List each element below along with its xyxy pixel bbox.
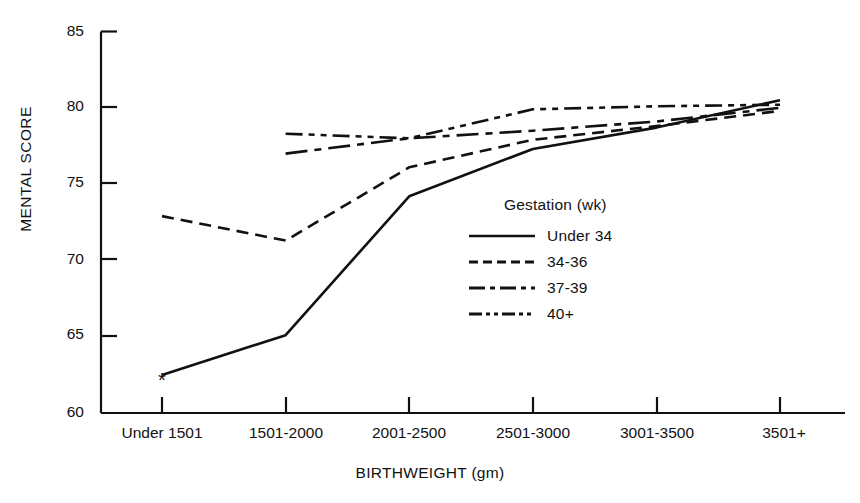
y-tick-label-70: 70 xyxy=(42,250,84,268)
y-tick-label-80: 80 xyxy=(42,97,84,115)
legend-title: Gestation (wk) xyxy=(504,196,612,214)
x-axis-ticks xyxy=(162,397,780,413)
legend-label-40-plus: 40+ xyxy=(547,305,574,323)
y-tick-label-65: 65 xyxy=(42,325,84,343)
series-line-40 xyxy=(286,105,780,139)
y-tick-label-85: 85 xyxy=(42,22,84,40)
y-tick-label-60: 60 xyxy=(42,403,84,421)
legend: Gestation (wk) Under 34 34-36 37-39 40+ xyxy=(468,196,612,327)
series-line-37-39 xyxy=(286,108,780,154)
y-tick-label-75: 75 xyxy=(42,173,84,191)
legend-swatch-dash-dot-dot xyxy=(468,307,536,321)
x-tick-label-1501-2000: 1501-2000 xyxy=(249,424,323,442)
chart-figure: MENTAL SCORE BIRTHWEIGHT (gm) 85 80 75 7… xyxy=(0,0,860,503)
legend-label-34-36: 34-36 xyxy=(547,253,588,271)
legend-swatch-solid xyxy=(468,229,536,243)
x-tick-label-under-1501: Under 1501 xyxy=(121,424,202,442)
legend-label-37-39: 37-39 xyxy=(547,279,588,297)
annotation-layer: * xyxy=(158,369,166,391)
legend-item-under-34: Under 34 xyxy=(468,223,612,249)
legend-item-37-39: 37-39 xyxy=(468,275,612,301)
x-tick-label-3001-3500: 3001-3500 xyxy=(620,424,694,442)
asterisk-annotation: * xyxy=(158,369,166,391)
y-axis-title: MENTAL SCORE xyxy=(17,89,35,249)
x-axis-title: BIRTHWEIGHT (gm) xyxy=(0,464,860,482)
legend-label-under-34: Under 34 xyxy=(547,227,612,245)
y-axis-ticks xyxy=(101,107,117,336)
x-tick-label-2001-2500: 2001-2500 xyxy=(372,424,446,442)
legend-item-40-plus: 40+ xyxy=(468,301,612,327)
legend-item-34-36: 34-36 xyxy=(468,249,612,275)
legend-swatch-dashed xyxy=(468,255,536,269)
x-tick-label-3501-plus: 3501+ xyxy=(762,424,806,442)
legend-swatch-dash-dot xyxy=(468,281,536,295)
x-tick-label-2501-3000: 2501-3000 xyxy=(496,424,570,442)
